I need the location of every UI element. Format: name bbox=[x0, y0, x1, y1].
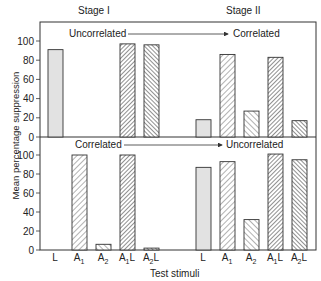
x-axis-label: Test stimuli bbox=[150, 268, 199, 279]
top-right-annotation: Correlated bbox=[233, 28, 280, 39]
y-tick-label: 80 bbox=[23, 55, 35, 66]
bar-A1L bbox=[120, 155, 135, 250]
bar-L bbox=[48, 50, 63, 137]
x-tick-label: A1 bbox=[215, 252, 239, 265]
y-axis-bottom: 020406080100 bbox=[17, 150, 40, 256]
y-tick-label: 60 bbox=[23, 74, 35, 85]
x-tick-label: L bbox=[43, 252, 67, 263]
y-tick-label: 0 bbox=[28, 132, 34, 143]
x-tick-label: A1L bbox=[263, 252, 287, 265]
bar-A2L bbox=[144, 45, 159, 137]
y-tick-label: 20 bbox=[23, 112, 35, 123]
stage2-title: Stage II bbox=[226, 5, 260, 16]
y-tick-label: 80 bbox=[23, 169, 35, 180]
bar-A1 bbox=[72, 155, 87, 250]
bar-A2 bbox=[244, 111, 259, 137]
y-tick-label: 0 bbox=[28, 245, 34, 256]
y-tick-label: 40 bbox=[23, 93, 35, 104]
x-tick-label: A1L bbox=[115, 252, 139, 265]
bar-A2L bbox=[144, 248, 159, 250]
bottom-left-annotation: Correlated bbox=[73, 139, 124, 150]
bar-A2L bbox=[292, 121, 307, 137]
x-tick-label: L bbox=[191, 252, 215, 263]
bar-A1 bbox=[220, 162, 235, 250]
bar-A2L bbox=[292, 160, 307, 250]
bottom-right-annotation: Uncorrelated bbox=[226, 139, 283, 150]
top-left-annotation: Uncorrelated bbox=[67, 28, 128, 39]
x-tick-label: A1 bbox=[67, 252, 91, 265]
y-axis-top: 020406080100 bbox=[17, 36, 40, 143]
bar-A1L bbox=[268, 57, 283, 137]
x-tick-label: A2L bbox=[139, 252, 163, 265]
x-tick-label: A2L bbox=[287, 252, 311, 265]
bar-A2 bbox=[96, 244, 111, 250]
bar-L bbox=[196, 120, 211, 137]
x-tick-label: A2 bbox=[239, 252, 263, 265]
bar-A2 bbox=[244, 220, 259, 250]
y-tick-label: 20 bbox=[23, 226, 35, 237]
bar-L bbox=[196, 167, 211, 250]
stage1-title: Stage I bbox=[78, 5, 110, 16]
bar-A1 bbox=[220, 54, 235, 137]
y-tick-label: 60 bbox=[23, 188, 35, 199]
y-axis-label: Mean percentage suppression bbox=[10, 61, 21, 211]
bar-A1L bbox=[268, 154, 283, 250]
x-tick-label: A2 bbox=[91, 252, 115, 265]
y-tick-label: 100 bbox=[17, 36, 34, 47]
y-tick-label: 40 bbox=[23, 207, 35, 218]
bar-A1L bbox=[120, 44, 135, 137]
